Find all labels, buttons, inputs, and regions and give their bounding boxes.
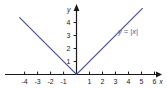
x-tick-label: 3 — [114, 78, 118, 85]
absolute-value-curve — [19, 8, 142, 74]
y-axis-arrow-icon — [74, 4, 80, 11]
y-tick-label: 3 — [67, 32, 71, 39]
y-tick-label: 1 — [67, 58, 71, 65]
x-tick-labels: -4 -3 -2 -1 1 2 3 4 5 6 — [21, 78, 156, 85]
y-tick-label: 2 — [67, 45, 71, 52]
x-tick-label: -1 — [60, 78, 66, 85]
x-tick-label: -3 — [34, 78, 40, 85]
x-axis-label: x — [158, 78, 163, 85]
x-axis-arrow-icon — [156, 72, 162, 78]
x-tick-label: -2 — [47, 78, 53, 85]
x-tick-label: 5 — [140, 78, 144, 85]
x-tick-label: 1 — [88, 78, 92, 85]
x-tick-label: 4 — [127, 78, 131, 85]
x-tick-label: 6 — [153, 78, 157, 85]
absolute-value-graph: -4 -3 -2 -1 1 2 3 4 5 6 1 2 3 4 y x y = … — [0, 0, 167, 89]
y-tick-labels: 1 2 3 4 — [67, 19, 71, 65]
y-axis-label: y — [66, 6, 71, 14]
graph-screenshot: -4 -3 -2 -1 1 2 3 4 5 6 1 2 3 4 y x y = … — [0, 0, 167, 89]
y-tick-label: 4 — [67, 19, 71, 26]
curve-equation-label: y = |x| — [117, 27, 138, 36]
axes-group — [5, 4, 162, 77]
x-tick-label: -4 — [21, 78, 27, 85]
x-tick-label: 2 — [101, 78, 105, 85]
